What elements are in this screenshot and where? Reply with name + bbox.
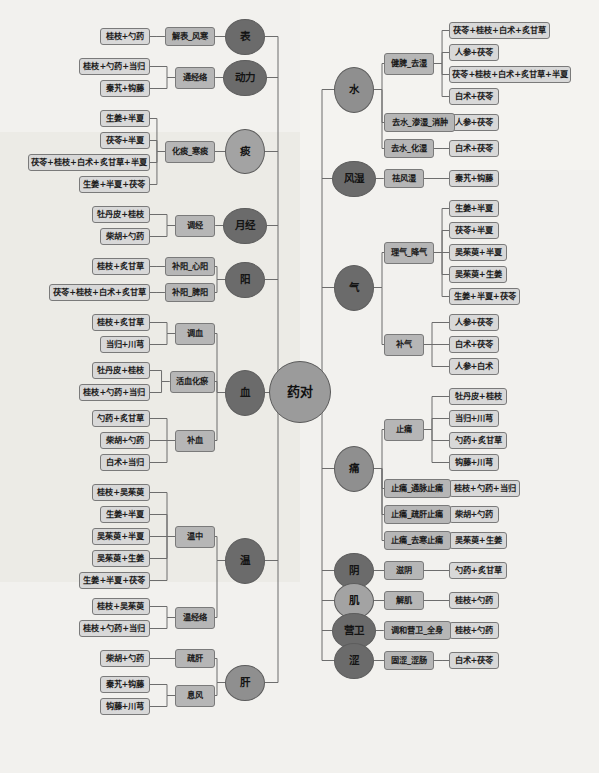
leaf-node[interactable]: 人参+茯苓 (449, 314, 499, 331)
leaf-node[interactable]: 人参+白术 (449, 358, 499, 375)
leaf-node[interactable]: 生姜+半夏 (449, 200, 499, 217)
group-node[interactable]: 固涩_涩肠 (384, 651, 434, 670)
leaf-node[interactable]: 生姜+半夏+茯苓 (79, 176, 150, 193)
leaf-node[interactable]: 牡丹皮+桂枝 (92, 362, 150, 379)
group-node[interactable]: 解肌 (384, 591, 424, 610)
group-node[interactable]: 补阳_心阳 (165, 257, 215, 276)
branch-node-shui[interactable]: 水 (334, 67, 374, 113)
leaf-node[interactable]: 柴胡+勺药 (449, 506, 499, 523)
group-node[interactable]: 解表_风寒 (165, 27, 215, 46)
leaf-node[interactable]: 吴茱萸+半夏 (92, 528, 150, 545)
leaf-node[interactable]: 茯苓+桂枝+白术+炙甘草 (49, 284, 150, 301)
leaf-node[interactable]: 茯苓+桂枝+白术+炙甘草 (449, 22, 550, 39)
group-node[interactable]: 调血 (175, 323, 215, 345)
group-node[interactable]: 调经 (175, 215, 215, 237)
branch-node-tong[interactable]: 痛 (334, 446, 374, 492)
group-node[interactable]: 止痛_通脉止痛 (384, 479, 451, 498)
leaf-node[interactable]: 白术+茯苓 (449, 140, 499, 157)
leaf-node[interactable]: 桂枝+勺药+当归 (79, 620, 150, 637)
group-node[interactable]: 止痛_去寒止痛 (384, 531, 451, 550)
group-node[interactable]: 止痛 (384, 419, 424, 441)
leaf-node[interactable]: 人参+茯苓 (449, 114, 499, 131)
leaf-node[interactable]: 柴胡+勺药 (100, 228, 150, 245)
branch-node-xue[interactable]: 血 (225, 370, 265, 416)
leaf-node[interactable]: 桂枝+吴茱萸 (92, 484, 150, 501)
leaf-node[interactable]: 生姜+半夏 (100, 110, 150, 127)
leaf-node[interactable]: 桂枝+炙甘草 (92, 314, 150, 331)
leaf-node[interactable]: 桂枝+勺药 (100, 28, 150, 45)
leaf-node[interactable]: 吴茱萸+生姜 (449, 266, 507, 283)
group-node[interactable]: 滋阴 (384, 561, 424, 580)
leaf-node[interactable]: 白术+茯苓 (449, 652, 499, 669)
branch-node-qi[interactable]: 气 (334, 265, 374, 311)
leaf-node[interactable]: 当归+川芎 (100, 336, 150, 353)
group-node[interactable]: 化痰_寒痰 (165, 141, 215, 163)
branch-node-yang[interactable]: 阳 (225, 262, 265, 298)
leaf-node[interactable]: 桂枝+炙甘草 (92, 258, 150, 275)
leaf-node[interactable]: 当归+川芎 (449, 410, 499, 427)
leaf-node[interactable]: 柴胡+勺药 (100, 432, 150, 449)
leaf-node[interactable]: 生姜+半夏+茯苓 (449, 288, 520, 305)
leaf-node[interactable]: 茯苓+桂枝+白术+炙甘草+半夏 (449, 66, 571, 83)
leaf-node[interactable]: 茯苓+半夏 (100, 132, 150, 149)
leaf-node[interactable]: 勺药+炙甘草 (92, 410, 150, 427)
leaf-node[interactable]: 吴茱萸+生姜 (92, 550, 150, 567)
group-node[interactable]: 补血 (175, 430, 215, 452)
leaf-node[interactable]: 白术+茯苓 (449, 88, 499, 105)
leaf-node[interactable]: 吴茱萸+半夏 (449, 244, 507, 261)
branch-node-se[interactable]: 涩 (334, 643, 374, 679)
group-node[interactable]: 止痛_疏肝止痛 (384, 505, 451, 524)
leaf-node[interactable]: 柴胡+勺药 (100, 650, 150, 667)
leaf-node[interactable]: 桂枝+吴茱萸 (92, 598, 150, 615)
leaf-node[interactable]: 钩藤+川芎 (100, 698, 150, 715)
leaf-node[interactable]: 生姜+半夏+茯苓 (79, 572, 150, 589)
branch-node-tan[interactable]: 痰 (225, 129, 265, 175)
group-node[interactable]: 活血化瘀 (170, 371, 215, 393)
leaf-node[interactable]: 秦艽+钩藤 (100, 80, 150, 97)
group-node[interactable]: 调和营卫_全身 (384, 621, 451, 640)
group-node[interactable]: 温经络 (175, 607, 215, 629)
group-node[interactable]: 去水_渗湿_消肿 (384, 113, 455, 132)
leaf-node[interactable]: 秦艽+钩藤 (100, 676, 150, 693)
leaf-node[interactable]: 吴茱萸+生姜 (449, 532, 507, 549)
mindmap-canvas: 桂枝+勺药解表_风寒表桂枝+勺药+当归秦艽+钩藤通经络动力生姜+半夏茯苓+半夏茯… (0, 0, 599, 773)
root-node[interactable]: 药对 (269, 361, 331, 423)
leaf-node[interactable]: 勺药+炙甘草 (449, 432, 507, 449)
branch-node-biao[interactable]: 表 (225, 19, 265, 55)
leaf-node[interactable]: 生姜+半夏 (100, 506, 150, 523)
leaf-node[interactable]: 钩藤+川芎 (449, 454, 499, 471)
group-node[interactable]: 温中 (175, 526, 215, 548)
branch-node-yuejing[interactable]: 月经 (223, 208, 266, 244)
group-node[interactable]: 疏肝 (175, 649, 215, 668)
group-node[interactable]: 祛风湿 (384, 169, 424, 188)
leaf-node[interactable]: 桂枝+勺药+当归 (79, 384, 150, 401)
group-node[interactable]: 补气 (384, 334, 424, 356)
leaf-node[interactable]: 桂枝+勺药+当归 (449, 480, 520, 497)
group-node[interactable]: 息风 (175, 685, 215, 707)
leaf-node[interactable]: 桂枝+勺药 (449, 622, 499, 639)
leaf-node[interactable]: 白术+茯苓 (449, 336, 499, 353)
group-node[interactable]: 补阳_脾阳 (165, 283, 215, 302)
leaf-node[interactable]: 人参+茯苓 (449, 44, 499, 61)
branch-node-dongli[interactable]: 动力 (223, 60, 266, 96)
branch-node-wen[interactable]: 温 (225, 538, 265, 584)
group-node[interactable]: 去水_化湿 (384, 139, 434, 158)
leaf-node[interactable]: 勺药+炙甘草 (449, 562, 507, 579)
leaf-node[interactable]: 白术+当归 (100, 454, 150, 471)
branch-node-gan[interactable]: 肝 (225, 665, 265, 701)
leaf-node[interactable]: 茯苓+半夏 (449, 222, 499, 239)
leaf-node[interactable]: 牡丹皮+桂枝 (92, 206, 150, 223)
leaf-node[interactable]: 牡丹皮+桂枝 (449, 388, 507, 405)
group-node[interactable]: 理气_降气 (384, 242, 434, 264)
group-node[interactable]: 通经络 (175, 67, 215, 89)
leaf-node[interactable]: 桂枝+勺药+当归 (79, 58, 150, 75)
group-node[interactable]: 健脾_去湿 (384, 53, 434, 75)
branch-node-fengshi[interactable]: 风湿 (332, 161, 375, 197)
leaf-node[interactable]: 秦艽+钩藤 (449, 170, 499, 187)
leaf-node[interactable]: 茯苓+桂枝+白术+炙甘草+半夏 (28, 154, 150, 171)
leaf-node[interactable]: 桂枝+勺药 (449, 592, 499, 609)
